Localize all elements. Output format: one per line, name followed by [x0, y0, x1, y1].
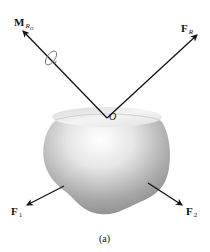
force1-label: F1 [11, 202, 22, 218]
force1-arrow [27, 186, 64, 205]
moment-subscript: RO [25, 22, 33, 30]
resultant-subscript: R [189, 28, 193, 36]
force2-subscript: 2 [194, 211, 198, 219]
force2-symbol: F [186, 205, 193, 217]
moment-label: MRO [14, 13, 33, 29]
figure-caption: (a) [99, 234, 110, 244]
force1-subscript: 1 [19, 211, 23, 219]
resultant-symbol: F [181, 22, 188, 34]
moment-curl-icon [43, 49, 59, 67]
resultant-force-label: FR [181, 19, 193, 35]
origin-label: O [109, 112, 116, 122]
moment-symbol: M [14, 16, 24, 28]
diagram-canvas [0, 0, 210, 252]
force2-label: F2 [186, 202, 197, 218]
force1-symbol: F [11, 205, 18, 217]
rigid-body [43, 107, 170, 214]
resultant-force-arrow [107, 35, 197, 118]
moment-vector-arrow [23, 31, 107, 118]
